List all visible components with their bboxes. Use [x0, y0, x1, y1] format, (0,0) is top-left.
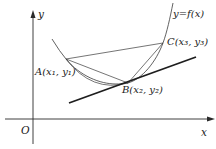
point-a-label: A(x₁, y₁): [34, 66, 76, 77]
point-c-label: C(x₃, y₃): [167, 36, 208, 47]
segment-b-c: [128, 43, 163, 83]
y-axis-label: y: [37, 8, 45, 20]
tangent-line-at-b: [69, 57, 196, 103]
x-axis-arrow-icon: [207, 117, 215, 122]
point-b-label: B(x₂, y₂): [121, 84, 163, 95]
curve-label: y=f(x): [172, 8, 204, 19]
x-axis-label: x: [201, 126, 207, 138]
origin-label: O: [21, 124, 30, 136]
segment-a-c: [66, 43, 163, 59]
function-diagram: y x O y=f(x) A(x₁, y₁) B(x₂, y₂) C(x₃, y…: [0, 0, 216, 149]
y-axis-arrow-icon: [31, 10, 36, 18]
